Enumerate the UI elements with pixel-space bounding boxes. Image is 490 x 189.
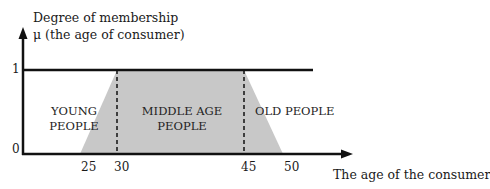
y-axis-title: Degree of membership μ (the age of consu…: [33, 9, 185, 43]
region-young-people: YOUNG PEOPLE: [44, 104, 104, 134]
x-tick-30: 30: [114, 160, 129, 174]
region-young-line1: YOUNG: [44, 104, 104, 119]
x-axis-title: The age of the consumer: [333, 167, 490, 182]
x-axis-arrow-icon: [341, 150, 353, 159]
x-tick-45: 45: [241, 160, 256, 174]
y-tick-1: 1: [12, 62, 20, 76]
region-old-line1: OLD PEOPLE: [255, 104, 337, 119]
region-old-people: OLD PEOPLE: [255, 104, 337, 119]
y-axis-title-line2: μ (the age of consumer): [33, 26, 185, 43]
x-tick-50: 50: [284, 160, 299, 174]
region-young-line2: PEOPLE: [44, 119, 104, 134]
region-middle-line2: PEOPLE: [137, 119, 227, 134]
region-middle-age-people: MIDDLE AGE PEOPLE: [137, 104, 227, 134]
region-middle-line1: MIDDLE AGE: [137, 104, 227, 119]
y-axis-title-line1: Degree of membership: [33, 9, 185, 26]
x-tick-25: 25: [81, 160, 96, 174]
y-tick-0: 0: [12, 142, 20, 156]
y-axis-arrow-icon: [19, 27, 28, 39]
